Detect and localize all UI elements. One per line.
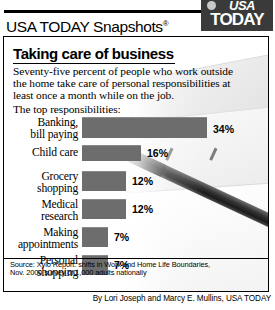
bar-medical-research: [82, 199, 126, 219]
bar-value-banking-bill-paying: 34%: [213, 124, 234, 135]
bar-child-care: [82, 145, 141, 161]
bar-value-making-appointments: 7%: [114, 232, 129, 243]
bar-label: Making appointments: [4, 227, 78, 250]
bar-banking-bill-paying: [82, 117, 207, 138]
chart-headline: Taking care of business: [13, 45, 174, 62]
bar-label: Grocery shopping: [4, 171, 78, 194]
registered-trademark-icon: ®: [163, 19, 169, 28]
chart-subtitle: Seventy-five percent of people who work …: [13, 65, 245, 102]
bar-value-medical-research: 12%: [132, 204, 153, 215]
logo-today-text: TODAY: [201, 10, 273, 29]
bar-value-grocery-shopping: 12%: [132, 176, 153, 187]
bar-value-child-care: 16%: [147, 148, 168, 159]
masthead: USA TODAY Snapshots® USA TODAY: [0, 0, 275, 40]
bar-label: Banking, bill paying: [4, 117, 78, 140]
bar-grocery-shopping: [82, 171, 126, 191]
masthead-divider: [4, 10, 209, 13]
bar-label: Child care: [4, 147, 78, 159]
bar-label: Medical research: [4, 199, 78, 222]
headline-divider: [13, 63, 175, 64]
byline: By Lori Joseph and Marcy E. Mullins, USA…: [93, 294, 271, 303]
source-note: Source: Xylo Report: shifts in Work and …: [10, 261, 220, 278]
page-title-text: USA TODAY Snapshots: [6, 18, 163, 35]
snapshot-panel: Taking care of business Seventy-five per…: [3, 36, 269, 292]
bar-making-appointments: [82, 227, 108, 247]
source-divider: [4, 258, 268, 259]
page-title: USA TODAY Snapshots®: [6, 15, 168, 36]
chart-intro-line: The top responsibilities:: [13, 103, 121, 115]
usa-today-logo: USA TODAY: [201, 0, 273, 31]
